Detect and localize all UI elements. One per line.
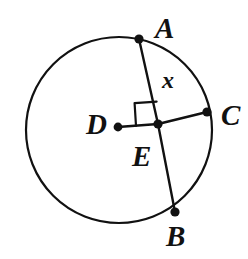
segment-label-x: x (162, 68, 174, 92)
point-label-a: A (155, 14, 174, 43)
point-label-e: E (132, 142, 151, 171)
point-d-dot (114, 123, 123, 132)
point-b-dot (170, 207, 179, 216)
point-label-d: D (86, 110, 107, 139)
circle-geometry-diagram (0, 0, 248, 259)
point-a-dot (134, 34, 143, 43)
point-c-dot (202, 107, 211, 116)
point-e-dot (153, 119, 162, 128)
point-label-b: B (166, 222, 185, 251)
point-label-c: C (221, 101, 240, 130)
